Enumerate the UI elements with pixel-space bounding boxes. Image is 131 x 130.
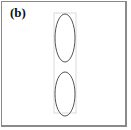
bottom-ellipse [55, 72, 75, 116]
top-ellipse [55, 14, 75, 62]
bounding-rectangle [54, 13, 76, 113]
ellipse-diagram [0, 0, 131, 130]
